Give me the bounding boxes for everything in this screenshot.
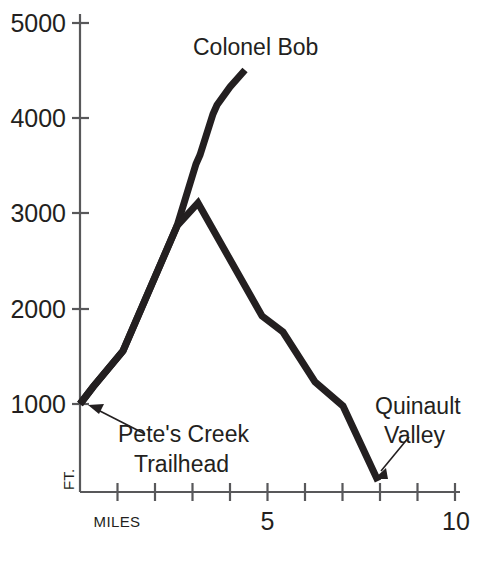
elevation-profile-figure: 5000 4000 3000 2000 1000 FT. 5 10 MIL bbox=[0, 0, 491, 575]
x-tick-label-5: 5 bbox=[261, 507, 275, 535]
annotation-colonel-bob-label: Colonel Bob bbox=[193, 34, 318, 60]
elevation-profile-chart: 5000 4000 3000 2000 1000 FT. 5 10 MIL bbox=[0, 0, 491, 575]
annotation-quinault-line1: Quinault bbox=[375, 393, 461, 419]
x-axis-unit-label: MILES bbox=[93, 513, 140, 530]
y-tick-labels: 5000 4000 3000 2000 1000 bbox=[10, 9, 66, 418]
y-tick-label-1000: 1000 bbox=[10, 390, 66, 418]
annotation-petes-creek-line2: Trailhead bbox=[134, 451, 229, 477]
y-tick-label-3000: 3000 bbox=[10, 199, 66, 227]
y-axis-unit-label: FT. bbox=[60, 469, 77, 490]
annotation-petes-creek-trailhead: Pete's Creek Trailhead bbox=[88, 404, 249, 477]
y-tick-label-5000: 5000 bbox=[10, 9, 66, 37]
x-tick-label-10: 10 bbox=[442, 507, 470, 535]
y-tick-label-2000: 2000 bbox=[10, 295, 66, 323]
x-tick-labels: 5 10 bbox=[261, 507, 470, 535]
annotation-quinault-valley: Quinault Valley bbox=[374, 393, 461, 479]
annotation-petes-creek-line1: Pete's Creek bbox=[118, 421, 249, 447]
annotation-colonel-bob: Colonel Bob bbox=[193, 34, 318, 60]
annotation-quinault-line2: Valley bbox=[384, 422, 445, 448]
y-tick-label-4000: 4000 bbox=[10, 104, 66, 132]
